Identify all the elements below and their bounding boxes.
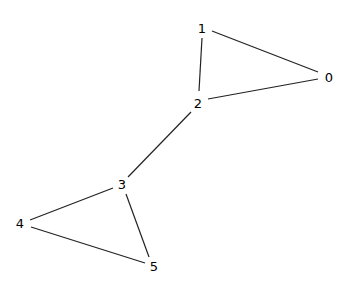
edge-1-0 bbox=[212, 31, 318, 72]
node-4: 4 bbox=[16, 216, 24, 231]
edge-2-0 bbox=[208, 79, 318, 99]
edge-4-5 bbox=[31, 227, 145, 263]
node-0: 0 bbox=[325, 70, 333, 85]
edge-3-5 bbox=[126, 194, 149, 257]
graph-diagram: 012345 bbox=[0, 0, 350, 287]
node-1: 1 bbox=[198, 21, 206, 36]
node-2: 2 bbox=[194, 96, 202, 111]
edge-1-2 bbox=[199, 38, 202, 91]
node-3: 3 bbox=[118, 177, 126, 192]
node-5: 5 bbox=[150, 259, 158, 274]
edge-2-3 bbox=[128, 112, 191, 177]
graph-svg: 012345 bbox=[0, 0, 350, 287]
edge-3-4 bbox=[30, 188, 113, 220]
